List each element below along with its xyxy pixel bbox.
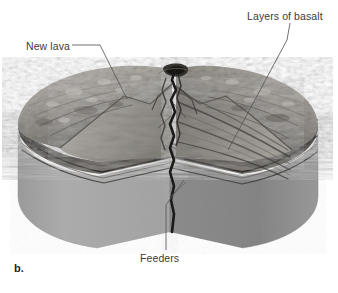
annotation-new-lava: New lava bbox=[26, 40, 70, 52]
annotation-layers-of-basalt: Layers of basalt bbox=[247, 10, 323, 22]
figure-container: New lava Layers of basalt Feeders b. bbox=[0, 0, 338, 293]
figure-letter-label: b. bbox=[14, 262, 24, 274]
annotation-feeders: Feeders bbox=[140, 252, 179, 264]
